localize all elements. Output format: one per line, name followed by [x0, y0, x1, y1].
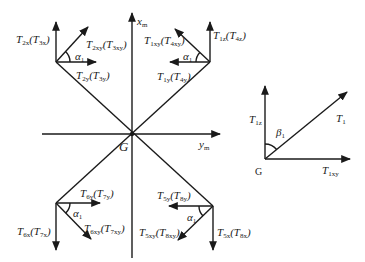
label-sub: 1 — [193, 217, 197, 225]
label-sub: 1y — [163, 76, 170, 84]
inset-label-t1: T1 — [336, 112, 346, 128]
inset-label-t1z: T1z — [249, 113, 262, 129]
label-alt-sub: 8y — [180, 195, 187, 203]
label-alt-sub: 3y — [99, 75, 106, 83]
label-sub: 1 — [79, 213, 83, 221]
label-sub: 6x — [23, 231, 30, 239]
label-sub: 2y — [82, 75, 89, 83]
label-sub: 2xy — [92, 44, 103, 52]
label-sub: 1 — [281, 132, 285, 140]
label-t5x: T5x(T8x) — [217, 226, 251, 242]
label-alt-sub: 7y — [103, 193, 110, 201]
label-sub: 5xy — [145, 232, 156, 240]
y-axis-label-sub: m — [204, 144, 209, 152]
label-alt-sub: 8x — [240, 232, 247, 240]
label-t6xy: T6xy(T7xy) — [84, 222, 125, 238]
label-sub: 1xy — [150, 40, 161, 48]
label-sub: 1xy — [328, 170, 339, 178]
label-alt-sub: 8xy — [165, 232, 176, 240]
inset-angle-arc — [265, 144, 277, 150]
label-sub: 1z — [219, 35, 226, 43]
label-t2y: T2y(T3y) — [76, 69, 110, 85]
label-t1z: T1z(T4z) — [213, 29, 246, 45]
label-alt-sub: 7xy — [110, 228, 121, 236]
x-axis-label: xm — [137, 15, 147, 31]
label-alt-sub: 7x — [40, 231, 47, 239]
label-alt-sub: 3xy — [112, 44, 123, 52]
label-t6y: T6y(T7y) — [80, 187, 114, 203]
label-alpha-tr: α1 — [183, 50, 192, 66]
origin-label: G — [119, 141, 128, 153]
label-sub: 6xy — [90, 228, 101, 236]
label-sub: 5y — [163, 195, 170, 203]
label-alpha-br: α1 — [187, 211, 196, 227]
label-t2xy: T2xy(T3xy) — [86, 38, 127, 54]
label-alt-sub: 4y — [180, 76, 187, 84]
label-alpha-tl: α1 — [75, 50, 84, 66]
label-sub: 1 — [342, 118, 346, 126]
label-sub: 1z — [255, 119, 262, 127]
y-axis-label: ym — [199, 138, 209, 154]
origin-point — [130, 132, 134, 136]
label-t6x: T6x(T7x) — [17, 225, 51, 241]
label-t1xy: T1xy(T4xy) — [144, 34, 185, 50]
label-sub: 6y — [86, 193, 93, 201]
inset-label-beta: β1 — [276, 126, 285, 142]
label-t2x: T2x(T3x) — [16, 33, 50, 49]
label-sub: 1 — [81, 56, 85, 64]
inset-label-t1xy: T1xy — [322, 164, 339, 180]
label-alt-sub: 4xy — [170, 40, 181, 48]
label-alt-sub: 3x — [39, 39, 46, 47]
angle-arc-bl — [66, 203, 70, 213]
x-axis-label-sub: m — [142, 21, 147, 29]
angle-arc-br — [199, 206, 203, 216]
label-sub: 5x — [223, 232, 230, 240]
label-alt-sub: 4z — [236, 35, 243, 43]
label-sub: 1 — [189, 56, 193, 64]
label-sub: 2x — [22, 39, 29, 47]
angle-arc-tl — [66, 52, 71, 62]
angle-arc-tr — [196, 52, 200, 62]
label-t5y: T5y(T8y) — [157, 189, 191, 205]
label-alpha-bl: α1 — [73, 207, 82, 223]
inset-origin-label: G — [255, 166, 262, 178]
label-t1y: T1y(T4y) — [157, 70, 191, 86]
label-t5xy: T5xy(T8xy) — [139, 226, 180, 242]
